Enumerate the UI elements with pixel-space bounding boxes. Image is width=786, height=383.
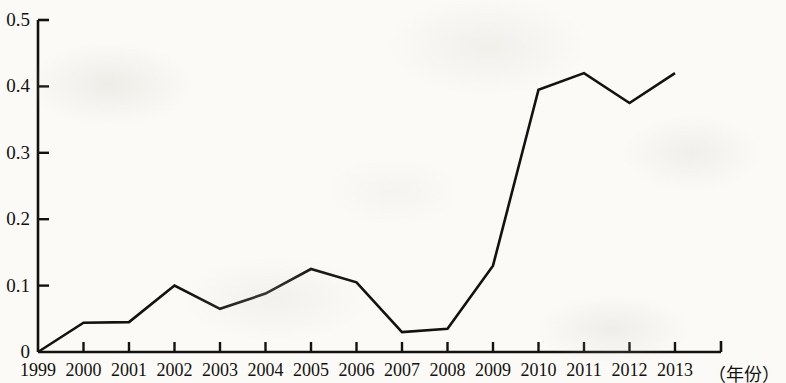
y-axis-tick-label: 0.4 xyxy=(6,75,30,97)
data-series-line xyxy=(38,73,675,352)
x-axis-tick-label: 2002 xyxy=(157,360,193,381)
y-axis-tick-label: 0.2 xyxy=(6,208,30,230)
x-axis-tick-label: 2007 xyxy=(384,360,420,381)
x-axis-tick-label: 2006 xyxy=(339,360,375,381)
x-axis-tick-label: 2012 xyxy=(612,360,648,381)
chart-plot-area xyxy=(0,0,786,383)
y-axis-tick-label: 0.3 xyxy=(6,142,30,164)
y-axis-tick-label: 0.1 xyxy=(6,275,30,297)
x-axis-tick-label: 2011 xyxy=(566,360,601,381)
x-axis-tick-label: 2013 xyxy=(657,360,693,381)
x-axis-tick-label: 2010 xyxy=(521,360,557,381)
x-axis-tick-label: 2008 xyxy=(430,360,466,381)
chart-tick-marks xyxy=(38,86,675,352)
x-axis-tick-label: 2001 xyxy=(111,360,147,381)
x-axis-tick-label: 1999 xyxy=(20,360,56,381)
chart-axes xyxy=(38,20,721,352)
x-axis-tick-label: 2000 xyxy=(66,360,102,381)
x-axis-tick-label: 2009 xyxy=(475,360,511,381)
x-axis-tick-label: 2004 xyxy=(248,360,284,381)
x-axis-tick-label: 2003 xyxy=(202,360,238,381)
x-axis-tick-label: 2005 xyxy=(293,360,329,381)
line-chart: 00.10.20.30.40.5 19992000200120022003200… xyxy=(0,0,786,383)
y-axis-tick-label: 0.5 xyxy=(6,9,30,31)
x-axis-label: （年份） xyxy=(708,360,780,383)
